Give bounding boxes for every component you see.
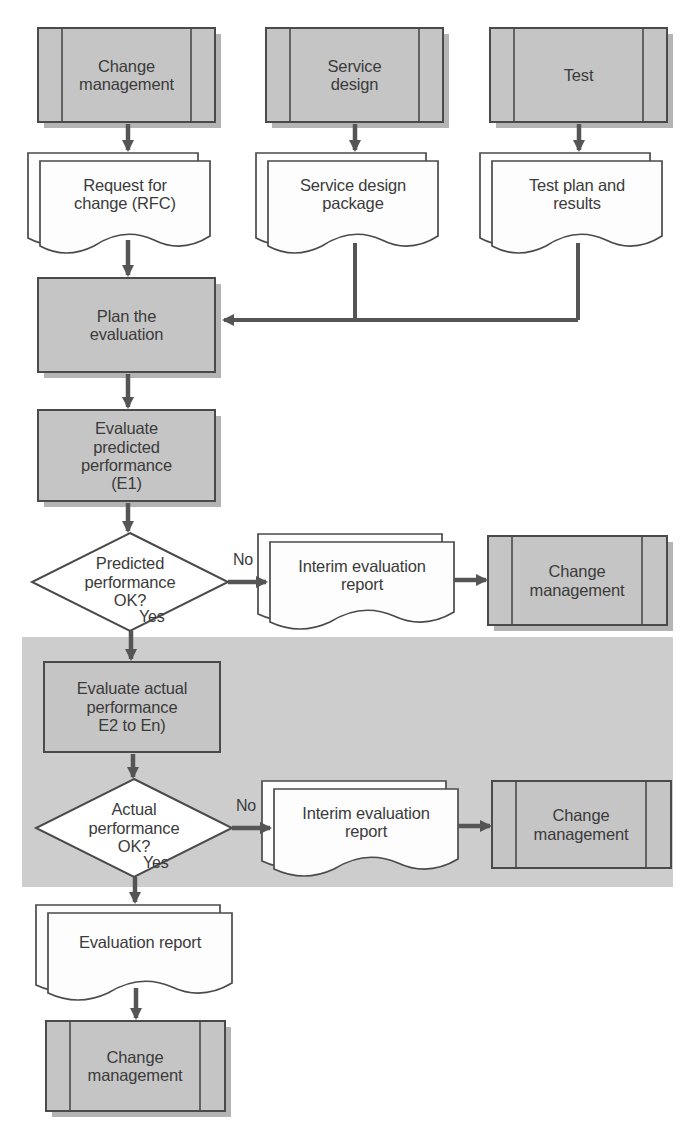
shape-change-management-bottom[interactable] xyxy=(46,1021,231,1117)
shape-change-management-top[interactable] xyxy=(38,28,221,128)
shape-request-for-change[interactable] xyxy=(28,153,210,253)
shape-predicted-ok-decision[interactable] xyxy=(32,533,228,631)
flowchart-vector-layer xyxy=(0,0,695,1141)
shape-test[interactable] xyxy=(490,28,673,128)
shape-service-design[interactable] xyxy=(266,28,449,128)
shape-test-plan-and-results[interactable] xyxy=(480,153,662,253)
shape-evaluate-predicted-performance[interactable] xyxy=(38,410,221,507)
shape-service-design-package[interactable] xyxy=(256,153,438,253)
shape-plan-the-evaluation[interactable] xyxy=(38,278,221,378)
shape-evaluate-actual-performance[interactable] xyxy=(44,662,220,752)
shape-interim-evaluation-report-1[interactable] xyxy=(258,534,454,629)
shape-change-management-2[interactable] xyxy=(492,781,671,868)
shape-evaluation-report[interactable] xyxy=(36,905,232,1000)
flowchart-canvas: Change management Service design Test Re… xyxy=(0,0,695,1141)
shape-change-management-1[interactable] xyxy=(488,536,673,631)
